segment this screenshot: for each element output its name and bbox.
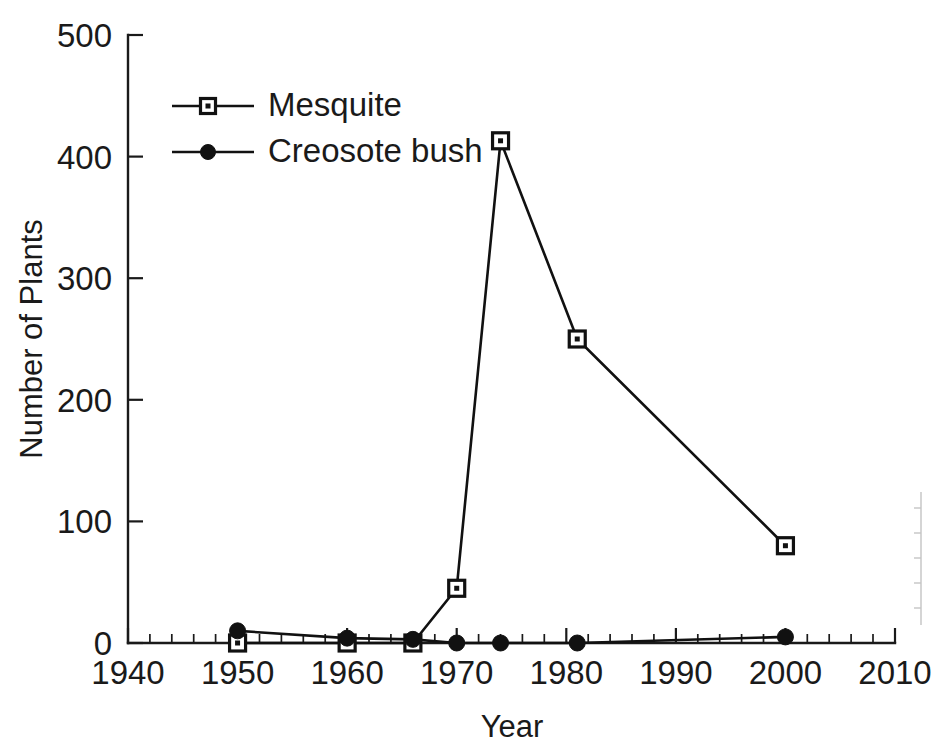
y-tick-label-100: 100 xyxy=(57,503,112,540)
legend-marker-open-square-center xyxy=(206,104,211,109)
series-line xyxy=(238,631,786,643)
legend-label-creosote-bush: Creosote bush xyxy=(268,132,483,169)
data-point-marker xyxy=(777,629,793,645)
data-point-marker xyxy=(449,635,465,651)
figure-container: 0 100 200 300 400 500 Number of Plants xyxy=(0,0,932,754)
x-tick-label-2010: 2010 xyxy=(858,654,931,691)
y-axis-tick-labels: 0 100 200 300 400 500 xyxy=(57,17,112,662)
data-series-layer xyxy=(230,133,794,651)
legend-label-mesquite: Mesquite xyxy=(268,86,402,123)
y-axis-ticks xyxy=(128,35,143,643)
line-chart: 0 100 200 300 400 500 Number of Plants xyxy=(0,0,932,754)
data-point-marker xyxy=(339,630,355,646)
x-tick-label-1980: 1980 xyxy=(530,654,603,691)
x-tick-label-2000: 2000 xyxy=(749,654,822,691)
y-tick-label-300: 300 xyxy=(57,260,112,297)
y-tick-label-200: 200 xyxy=(57,382,112,419)
data-point-marker xyxy=(569,635,585,651)
series-creosote-bush xyxy=(230,623,794,651)
x-tick-label-1950: 1950 xyxy=(201,654,274,691)
y-tick-label-400: 400 xyxy=(57,139,112,176)
right-edge-crop-artifact xyxy=(914,492,921,625)
data-point-marker xyxy=(493,635,509,651)
legend-marker-filled-circle xyxy=(201,145,216,160)
data-point-marker-center xyxy=(454,586,459,591)
x-tick-label-1970: 1970 xyxy=(420,654,493,691)
x-axis-title: Year xyxy=(481,709,544,744)
legend-entry-creosote-bush: Creosote bush xyxy=(172,132,483,169)
x-axis-tick-labels: 1940 1950 1960 1970 1980 1990 2000 2010 xyxy=(91,654,931,691)
data-point-marker-center xyxy=(498,138,503,143)
y-axis-title: Number of Plants xyxy=(14,219,49,459)
data-point-marker xyxy=(230,623,246,639)
series-line xyxy=(238,141,786,643)
chart-legend: Mesquite Creosote bush xyxy=(172,86,483,169)
x-tick-label-1940: 1940 xyxy=(91,654,164,691)
data-point-marker-center xyxy=(235,641,240,646)
data-point-marker-center xyxy=(783,543,788,548)
x-tick-label-1960: 1960 xyxy=(310,654,383,691)
y-tick-label-500: 500 xyxy=(57,17,112,54)
legend-entry-mesquite: Mesquite xyxy=(172,86,402,123)
data-point-marker-center xyxy=(575,337,580,342)
data-point-marker xyxy=(405,631,421,647)
x-tick-label-1990: 1990 xyxy=(639,654,712,691)
series-mesquite xyxy=(230,133,794,651)
